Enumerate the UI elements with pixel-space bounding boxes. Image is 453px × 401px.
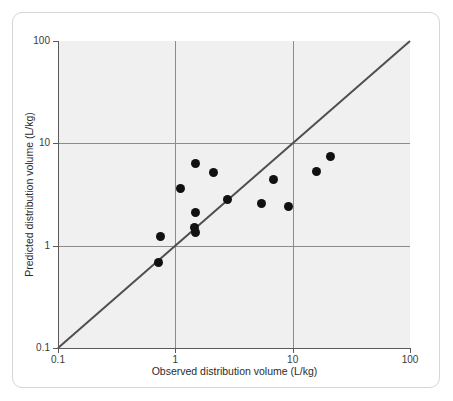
y-axis-tick-label: 1 (44, 241, 50, 251)
data-point (209, 168, 218, 177)
x-axis-tick-label: 10 (263, 355, 323, 365)
y-axis-tick-label: 0.1 (36, 343, 50, 353)
y-axis-tick (53, 41, 58, 42)
data-point (269, 175, 278, 184)
data-point (176, 184, 185, 193)
scatter-chart: Predicted distribution volume (L/kg) Obs… (0, 0, 453, 401)
x-axis-tick (175, 348, 176, 353)
y-axis-tick (53, 246, 58, 247)
y-axis-tick-label: 100 (33, 36, 50, 46)
x-axis-tick-label: 1 (145, 355, 205, 365)
data-point (257, 199, 266, 208)
data-point (154, 258, 163, 267)
y-axis-tick-label: 10 (39, 138, 50, 148)
x-axis-tick (410, 348, 411, 353)
x-axis-tick-label: 0.1 (28, 355, 88, 365)
x-axis-tick (293, 348, 294, 353)
x-axis-tick (58, 348, 59, 353)
plot-area (58, 41, 410, 348)
y-axis (58, 41, 59, 349)
y-axis-label: Predicted distribution volume (L/kg) (22, 41, 36, 348)
x-axis-tick-label: 100 (380, 355, 440, 365)
data-point (326, 152, 335, 161)
y-axis-tick (53, 143, 58, 144)
x-axis (58, 348, 411, 349)
line-of-identity (58, 41, 410, 348)
x-axis-label: Observed distribution volume (L/kg) (58, 364, 411, 378)
